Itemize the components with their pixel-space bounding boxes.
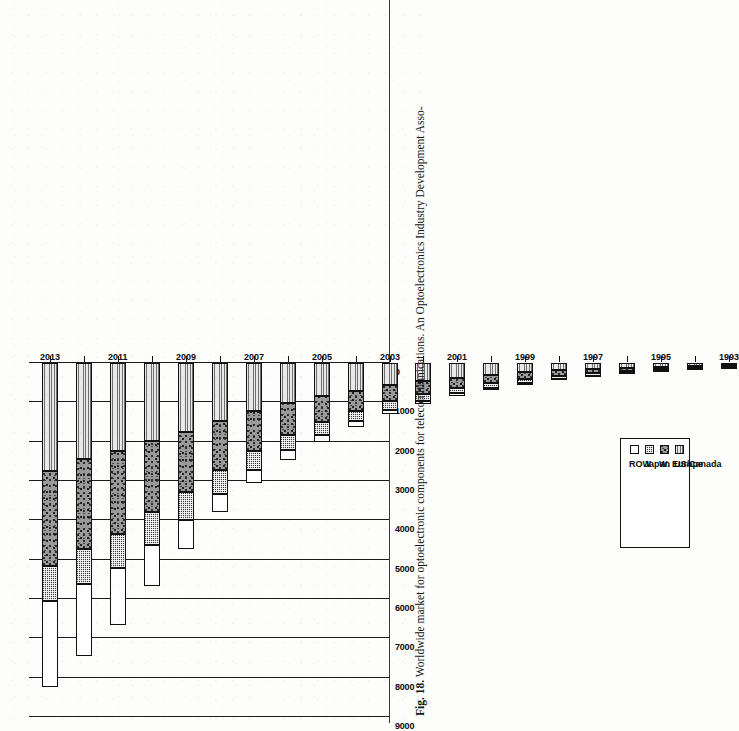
bar-segment-2011-USCanada[interactable] [109,363,125,451]
legend-swatch-USCanada [675,444,684,453]
figure-number: Fig. 18. [414,680,426,716]
legend-swatch-ROW [630,444,639,453]
bar-segment-2006-USCanada[interactable] [279,363,295,403]
bar-segment-2013-USCanada[interactable] [41,363,57,471]
bar-segment-2005-ROW[interactable] [313,434,329,442]
bar-segment-2007-USCanada[interactable] [245,363,261,411]
bar-2001[interactable] [449,0,465,723]
bar-segment-2011-Japan[interactable] [109,533,125,568]
bar-2000[interactable] [483,0,499,723]
bar-1997[interactable] [585,0,601,723]
bar-segment-2001-Japan[interactable] [449,387,465,393]
bar-1996[interactable] [619,0,635,723]
bar-segment-2006-Japan[interactable] [279,434,295,450]
rotated-chart: 9000800070006000500040003000200010000199… [29,0,394,723]
bar-segment-2005-Japan[interactable] [313,421,329,434]
bar-1993[interactable] [721,0,737,723]
bar-segment-1999-WEurope[interactable] [517,372,533,379]
bar-segment-2008-USCanada[interactable] [211,363,227,421]
bar-segment-2011-ROW[interactable] [109,568,125,624]
legend-swatch-WEurope [660,444,669,453]
bar-segment-1998-WEurope[interactable] [551,370,567,376]
bar-segment-2013-ROW[interactable] [41,601,57,687]
bar-segment-1996-WEurope[interactable] [619,367,635,371]
plot-area: 9000800070006000500040003000200010000199… [29,0,394,723]
bar-segment-2001-WEurope[interactable] [449,377,465,387]
caption-text: Worldwide market for optoelectronic comp… [414,106,426,677]
bar-1998[interactable] [551,0,567,723]
bar-segment-2012-USCanada[interactable] [75,363,91,459]
bar-segment-1997-WEurope[interactable] [585,368,601,372]
bar-segment-2010-Japan[interactable] [143,512,159,545]
bar-segment-2005-USCanada[interactable] [313,363,329,396]
bar-segment-2009-Japan[interactable] [177,492,193,520]
bar-segment-1993-USCanada[interactable] [721,363,737,365]
bar-1994[interactable] [687,0,703,723]
bar-segment-1996-USCanada[interactable] [619,363,635,368]
bar-2005[interactable] [313,0,329,723]
bar-segment-1997-USCanada[interactable] [585,363,601,369]
bar-2013[interactable] [41,0,57,723]
bar-segment-2001-USCanada[interactable] [449,363,465,378]
bar-2010[interactable] [143,0,159,723]
bar-2012[interactable] [75,0,91,723]
bar-segment-2008-WEurope[interactable] [211,421,227,470]
bar-segment-1994-USCanada[interactable] [687,363,703,366]
bar-segment-1998-USCanada[interactable] [551,363,567,370]
bar-segment-2009-USCanada[interactable] [177,363,193,432]
bar-2007[interactable] [245,0,261,723]
bar-segment-2008-ROW[interactable] [211,493,227,511]
bar-segment-2007-ROW[interactable] [245,470,261,483]
bar-2004[interactable] [347,0,363,723]
bar-2008[interactable] [211,0,227,723]
legend-swatch-Japan [645,444,654,453]
bar-2006[interactable] [279,0,295,723]
bar-segment-2012-Japan[interactable] [75,549,91,584]
bar-segment-2013-WEurope[interactable] [41,471,57,566]
figure-caption: Fig. 18. Worldwide market for optoelectr… [394,0,420,723]
legend-label-USCanada: US/Canada [674,458,722,468]
bar-segment-2005-WEurope[interactable] [313,396,329,421]
bar-segment-2011-WEurope[interactable] [109,451,125,534]
bar-1995[interactable] [653,0,669,723]
bar-segment-2007-Japan[interactable] [245,450,261,469]
bar-segment-2006-ROW[interactable] [279,450,295,460]
bar-segment-2004-WEurope[interactable] [347,390,363,410]
bar-segment-2010-WEurope[interactable] [143,440,159,511]
bar-segment-2013-Japan[interactable] [41,566,57,601]
bar-segment-2007-WEurope[interactable] [245,411,261,450]
bar-segment-1999-USCanada[interactable] [517,363,533,372]
bar-segment-2004-USCanada[interactable] [347,363,363,391]
bar-2009[interactable] [177,0,193,723]
bar-segment-2006-WEurope[interactable] [279,403,295,434]
bar-segment-2009-WEurope[interactable] [177,432,193,492]
bar-segment-2004-Japan[interactable] [347,410,363,420]
bar-2011[interactable] [109,0,125,723]
bar-segment-1995-USCanada[interactable] [653,363,669,367]
bar-segment-2000-Japan[interactable] [483,383,499,388]
bar-segment-2000-WEurope[interactable] [483,374,499,382]
chart-legend: ROWJapanW. EuropeUS/Canada [620,437,690,547]
bar-segment-2012-WEurope[interactable] [75,459,91,549]
bar-segment-2008-Japan[interactable] [211,470,227,494]
bar-segment-2009-ROW[interactable] [177,520,193,548]
bar-segment-2000-USCanada[interactable] [483,363,499,375]
bar-segment-2010-USCanada[interactable] [143,363,159,441]
bar-segment-2004-ROW[interactable] [347,421,363,427]
bar-segment-2010-ROW[interactable] [143,544,159,585]
bar-segment-2012-ROW[interactable] [75,584,91,656]
bar-1999[interactable] [517,0,533,723]
bar-segment-1999-Japan[interactable] [517,379,533,383]
